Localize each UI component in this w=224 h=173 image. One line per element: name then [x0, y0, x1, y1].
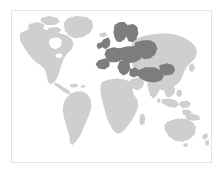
world-map-figure	[0, 0, 224, 173]
map-frame	[11, 10, 212, 163]
sri-lanka-shape	[157, 99, 160, 103]
map-canvas	[12, 11, 211, 162]
